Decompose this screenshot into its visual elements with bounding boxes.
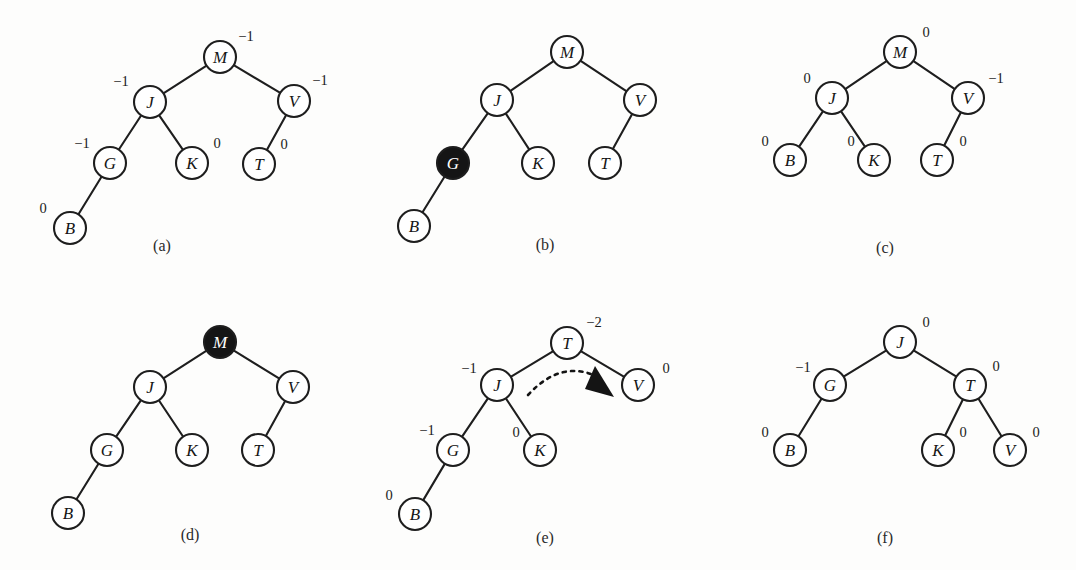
rotation-arrowhead-icon (585, 366, 614, 397)
tree-edge-J-T (913, 350, 957, 377)
balance-factor-B: 0 (761, 424, 768, 440)
node-key-label: G (824, 376, 836, 395)
tree-edge-M-V (233, 350, 280, 379)
tree-edge-J-G (461, 397, 488, 437)
node-key-label: T (254, 155, 265, 174)
balance-factor-G: −1 (795, 359, 810, 375)
avl-tree-figure: M−1J−1V−1G−1K0T0B0(a)MJVGKTB(b)M0J0V−1B0… (0, 0, 1076, 570)
tree-edge-J-K (159, 114, 184, 150)
tree-edge-T-V (978, 398, 1002, 437)
tree-edge-J-G (115, 399, 141, 437)
node-key-label: B (409, 217, 420, 236)
node-key-label: K (185, 441, 199, 460)
tree-node-J[interactable]: J (134, 86, 166, 118)
tree-node-K[interactable]: K (176, 434, 208, 466)
figure-canvas: M−1J−1V−1G−1K0T0B0(a)MJVGKTB(b)M0J0V−1B0… (0, 0, 1076, 570)
tree-node-V[interactable]: V (622, 369, 654, 401)
tree-node-J[interactable]: J (884, 326, 916, 358)
tree-node-B[interactable]: B (398, 210, 430, 242)
node-key-label: B (410, 505, 421, 524)
node-key-label: T (562, 334, 573, 353)
edge-group (422, 60, 633, 213)
balance-factor-T: 0 (280, 136, 287, 152)
node-key-label: G (101, 441, 113, 460)
tree-edge-M-J (163, 350, 208, 379)
tree-node-T[interactable]: T (242, 434, 274, 466)
tree-node-G[interactable]: G (91, 434, 123, 466)
panel-b: MJVGKTB(b) (398, 36, 656, 254)
tree-edge-J-B (798, 110, 823, 147)
panel-c: M0J0V−1B0K0T0(c) (761, 24, 1003, 257)
panel-e: T−2J−1V0G−1K0B0(e) (385, 314, 669, 547)
tree-node-J[interactable]: J (134, 371, 166, 403)
node-key-label: K (867, 151, 881, 170)
tree-node-V[interactable]: V (277, 371, 309, 403)
tree-node-B[interactable]: B (774, 144, 806, 176)
tree-node-K[interactable]: K (176, 147, 208, 179)
node-key-label: B (785, 151, 796, 170)
tree-node-K[interactable]: K (524, 434, 556, 466)
tree-node-V[interactable]: V (624, 84, 656, 116)
tree-node-V[interactable]: V (952, 82, 984, 114)
tree-edge-M-V (580, 60, 628, 92)
balance-factor-V: −1 (988, 70, 1003, 86)
tree-node-T[interactable]: T (551, 327, 583, 359)
tree-edge-G-B (78, 176, 102, 215)
balance-factor-K: 0 (959, 424, 966, 440)
tree-node-V[interactable]: V (278, 85, 310, 117)
tree-node-B[interactable]: B (774, 434, 806, 466)
edge-group (78, 65, 287, 216)
tree-edge-V-T (265, 400, 285, 437)
tree-node-K[interactable]: K (922, 434, 954, 466)
tree-node-K[interactable]: K (858, 144, 890, 176)
tree-node-M[interactable]: M (884, 36, 916, 68)
tree-node-J[interactable]: J (816, 82, 848, 114)
tree-edge-J-K (158, 399, 183, 437)
node-key-label: B (65, 219, 76, 238)
node-key-label: T (932, 151, 943, 170)
node-key-label: M (212, 48, 228, 67)
tree-node-T[interactable]: T (589, 147, 621, 179)
node-key-label: K (531, 154, 545, 173)
tree-node-J[interactable]: J (481, 84, 513, 116)
tree-node-T[interactable]: T (243, 148, 275, 180)
balance-factor-K: 0 (512, 424, 519, 440)
balance-factor-V: 0 (1032, 424, 1039, 440)
tree-node-T[interactable]: T (921, 144, 953, 176)
tree-edge-G-B (76, 463, 99, 500)
balance-factor-K: 0 (847, 133, 854, 149)
tree-node-G[interactable]: G (814, 369, 846, 401)
tree-node-B[interactable]: B (399, 498, 431, 530)
tree-edge-J-G (118, 115, 142, 151)
tree-node-V[interactable]: V (994, 434, 1026, 466)
balance-factor-B: 0 (761, 133, 768, 149)
tree-node-K[interactable]: K (522, 147, 554, 179)
tree-edge-M-J (844, 60, 887, 89)
tree-node-G[interactable]: G (94, 147, 126, 179)
tree-edge-M-V (233, 65, 281, 94)
tree-node-G[interactable]: G (437, 147, 469, 179)
balance-factor-J: −1 (461, 360, 476, 376)
tree-node-B[interactable]: B (52, 497, 84, 529)
tree-node-B[interactable]: B (54, 212, 86, 244)
balance-factor-J: −1 (113, 73, 128, 89)
panel-f: J0G−1T0B0K0V0(f) (761, 314, 1039, 547)
tree-node-G[interactable]: G (437, 434, 469, 466)
balance-factor-K: 0 (213, 135, 220, 151)
tree-edge-T-J (510, 351, 554, 378)
panel-caption-a: (a) (153, 237, 171, 255)
panel-caption-e: (e) (536, 529, 554, 547)
balance-factor-T: −2 (586, 314, 601, 330)
tree-node-M[interactable]: M (551, 36, 583, 68)
node-key-label: T (965, 376, 976, 395)
panel-caption-d: (d) (181, 526, 200, 544)
tree-node-T[interactable]: T (954, 369, 986, 401)
balance-factor-G: −1 (419, 422, 434, 438)
tree-node-J[interactable]: J (481, 369, 513, 401)
node-key-label: K (931, 441, 945, 460)
tree-node-M[interactable]: M (204, 41, 236, 73)
panel-caption-b: (b) (536, 236, 555, 254)
balance-factor-V: 0 (662, 360, 669, 376)
tree-node-M[interactable]: M (204, 326, 236, 358)
node-key-label: T (253, 441, 264, 460)
